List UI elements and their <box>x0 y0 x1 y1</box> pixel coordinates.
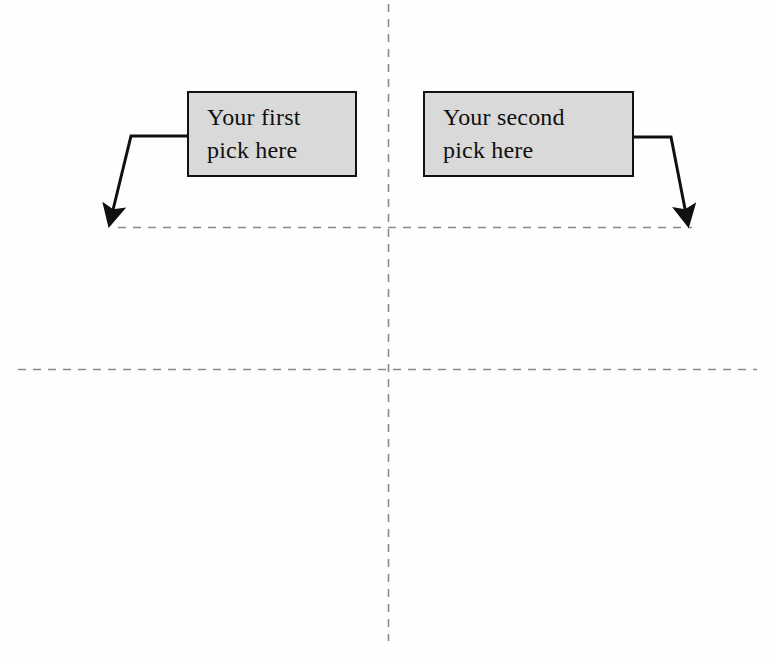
callout-first-line-2: pick here <box>207 134 347 167</box>
callout-second-line-2: pick here <box>443 134 624 167</box>
arrow-right <box>634 137 686 214</box>
arrow-left <box>112 136 187 214</box>
callout-box-first-pick: Your first pick here <box>187 91 357 177</box>
diagram-canvas: Your first pick here Your second pick he… <box>0 0 771 664</box>
callout-second-line-1: Your second <box>443 101 624 134</box>
callout-box-second-pick: Your second pick here <box>423 91 634 177</box>
vector-layer <box>0 0 771 664</box>
callout-first-line-1: Your first <box>207 101 347 134</box>
